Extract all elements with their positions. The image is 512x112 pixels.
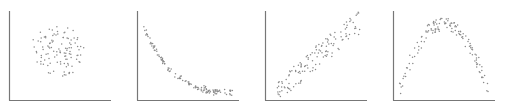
data-point [175,73,177,75]
data-point [334,32,336,34]
data-point [278,94,280,96]
data-point [300,66,302,68]
data-point [290,90,292,92]
data-point [449,23,451,25]
data-point [453,22,455,24]
data-point [345,33,347,35]
data-point [425,30,427,32]
data-point [44,59,46,61]
data-point [69,42,71,44]
data-point [452,31,454,33]
data-point [195,85,197,87]
data-point [309,71,311,73]
data-point [143,26,145,28]
data-point [209,92,211,94]
data-point [358,12,360,14]
data-point [306,56,308,58]
data-point [421,41,423,43]
data-point [354,28,356,30]
data-point [316,56,318,58]
data-point [76,59,78,61]
data-point [150,42,152,44]
data-point [197,87,199,89]
data-point [331,43,333,45]
data-point [180,75,182,77]
data-point [474,54,476,56]
data-point [74,42,76,44]
data-point [323,56,325,58]
data-point [201,87,203,89]
data-point [433,24,435,26]
data-point [289,70,291,72]
data-point [318,49,320,51]
data-point [333,36,335,38]
data-point [299,62,301,64]
data-point [287,92,289,94]
data-point [412,56,414,58]
data-point [53,33,55,35]
data-point [432,32,434,34]
data-point [69,53,71,55]
data-point [318,44,320,46]
data-point [481,66,483,68]
data-point [218,90,220,92]
data-point [414,47,416,49]
data-point [335,38,337,40]
data-point [327,51,329,53]
data-point [158,54,160,56]
point-cloud [143,26,233,96]
data-point [146,33,148,35]
data-point [203,85,205,87]
data-point [64,74,66,76]
data-point [456,34,458,36]
data-point [330,34,332,36]
data-point [146,29,148,31]
data-point [162,61,164,63]
data-point [321,45,323,47]
data-point [78,61,80,63]
data-point [467,41,469,43]
data-point [37,40,39,42]
data-point [57,31,59,32]
data-point [69,72,71,74]
data-point [161,59,163,61]
scatter-plot-decay [128,0,256,112]
data-point [281,90,283,92]
data-point [205,92,207,94]
data-point [65,55,67,57]
data-point [76,39,78,41]
data-point [312,67,314,69]
data-point [61,43,63,45]
data-point [44,36,46,38]
data-point [62,75,64,77]
data-point [412,63,414,65]
data-point [469,43,471,45]
data-point [70,39,72,41]
data-point [486,90,488,92]
data-point [439,31,441,33]
data-point [154,45,156,47]
data-point [348,38,350,40]
data-point [193,87,195,89]
scatter-pattern-row [0,0,512,112]
data-point [352,22,354,24]
data-point [40,63,42,65]
data-point [430,28,432,30]
data-point [407,67,409,69]
data-point [40,37,42,39]
data-point [64,52,66,54]
data-point [428,24,430,26]
data-point [49,29,51,31]
data-point [462,38,464,40]
data-point [331,56,333,58]
data-point [215,91,217,93]
panel-positive-linear [256,0,384,112]
data-point [315,47,317,49]
data-point [80,54,82,56]
data-point [206,89,208,91]
data-point [42,49,44,51]
data-point [434,21,436,23]
scatter-plot-circular [0,0,128,112]
data-point [465,35,467,37]
data-point [400,83,402,85]
